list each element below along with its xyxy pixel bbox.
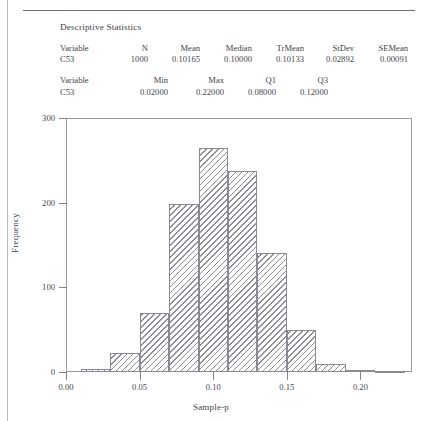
cell-n: 1000 [112,54,148,66]
cell-q1: 0.08000 [224,87,276,99]
col-header-stdev: StDev [304,43,354,55]
histogram-bar [81,369,110,372]
cell-variable: C53 [60,87,112,99]
x-axis-tick [213,372,214,380]
stats-table-primary: Variable N Mean Median TrMean StDev SEMe… [60,43,408,66]
histogram-bar [199,148,228,372]
cut-off-header-text [150,0,390,4]
x-axis-tick [140,372,141,380]
col-header-n: N [112,43,148,55]
cell-min: 0.02000 [112,87,168,99]
col-header-min: Min [112,75,168,87]
histogram-bar [228,171,257,372]
descriptive-statistics-block: Descriptive Statistics Variable N Mean M… [60,22,410,98]
x-axis-title: Sample-p [0,402,422,412]
col-header-mean: Mean [148,43,200,55]
y-axis-tick [59,203,67,204]
cell-trmean: 0.10133 [252,54,304,66]
x-axis-tick-label: 0.05 [120,382,160,392]
histogram-bar [169,204,198,372]
y-axis-tick-label: 200 [25,198,55,208]
x-axis-tick-label: 0.00 [46,382,86,392]
col-header-q3: Q3 [276,75,328,87]
col-header-q1: Q1 [224,75,276,87]
x-axis-tick [66,372,67,380]
histogram-bar [375,371,404,373]
histogram-bar [140,313,169,372]
table-row: C53 1000 0.10165 0.10000 0.10133 0.02892… [60,54,408,66]
histogram-bar [287,330,316,372]
header-rule [23,10,415,11]
x-axis-tick-label: 0.20 [340,382,380,392]
x-axis-tick-label: 0.15 [267,382,307,392]
col-header-median: Median [200,43,252,55]
cell-max: 0.22000 [168,87,224,99]
cell-stdev: 0.02892 [304,54,354,66]
x-axis-tick [360,372,361,380]
x-axis-tick [287,372,288,380]
y-axis-tick-label: 300 [25,113,55,123]
histogram-chart: 0100200300 0.000.050.100.150.20 Frequenc… [0,108,422,421]
y-axis-tick-label: 0 [25,367,55,377]
table-header-row: Variable Min Max Q1 Q3 [60,75,328,87]
cell-median: 0.10000 [200,54,252,66]
descriptive-statistics-block-secondary: Variable Min Max Q1 Q3 C53 0.02000 0.220… [60,75,410,98]
col-header-max: Max [168,75,224,87]
y-axis-tick [59,118,67,119]
cell-q3: 0.12000 [276,87,328,99]
col-header-variable: Variable [60,43,112,55]
histogram-bar [257,253,286,372]
stats-table-secondary: Variable Min Max Q1 Q3 C53 0.02000 0.220… [60,75,328,98]
descriptive-statistics-title: Descriptive Statistics [60,22,410,34]
histogram-bar [110,353,139,372]
cell-semean: 0.00091 [354,54,408,66]
cell-variable: C53 [60,54,112,66]
y-axis-title: Frequency [10,183,20,283]
table-row: C53 0.02000 0.22000 0.08000 0.12000 [60,87,328,99]
histogram-bar [316,364,345,372]
y-axis-tick-label: 100 [25,282,55,292]
table-header-row: Variable N Mean Median TrMean StDev SEMe… [60,43,408,55]
col-header-variable: Variable [60,75,112,87]
col-header-trmean: TrMean [252,43,304,55]
col-header-semean: SEMean [354,43,408,55]
y-axis-tick [59,287,67,288]
x-axis-tick-label: 0.10 [193,382,233,392]
cell-mean: 0.10165 [148,54,200,66]
